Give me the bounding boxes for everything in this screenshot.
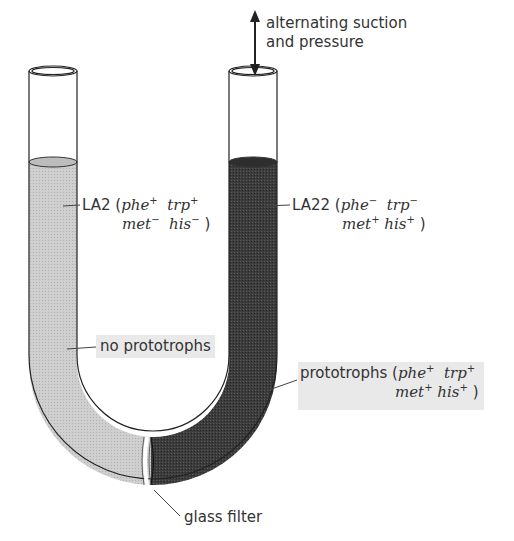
glass-filter-label: glass filter [184,508,262,527]
sign: − [191,214,199,225]
sign: + [467,363,475,374]
sign: − [369,195,377,206]
left-strain-name: LA2 [82,196,111,214]
left-strain-label: LA2 (phe+ trp+ met− his− ) [82,196,210,234]
right-result-text: prototrophs [300,364,387,382]
sign: − [151,214,159,225]
arrow-label-line2: and pressure [266,33,407,52]
gene: his [169,215,191,233]
sign: + [406,214,414,225]
gene: met [395,383,424,401]
sign: + [459,382,467,393]
arrow-label: alternating suction and pressure [266,14,407,52]
gene: phe [121,196,149,214]
gene: trp [167,196,190,214]
right-strain-name: LA22 [292,196,330,214]
sign: + [426,363,434,374]
gene: trp [444,364,467,382]
gene: met [342,215,371,233]
right-strain-label: LA22 (phe− trp− met+ his+ ) [292,196,425,234]
sign: + [190,195,198,206]
gene: his [437,383,459,401]
sign: − [410,195,418,206]
sign: + [424,382,432,393]
arrow-label-line1: alternating suction [266,14,407,33]
gene: phe [398,364,426,382]
gene: trp [387,196,410,214]
left-result-label: no prototrophs [96,335,215,358]
gene: met [122,215,151,233]
gene: phe [341,196,369,214]
u-tube-diagram [0,0,514,541]
right-result-label: prototrophs (phe+ trp+ met+ his+ ) [298,362,484,410]
gene: his [384,215,406,233]
sign: + [149,195,157,206]
sign: + [371,214,379,225]
